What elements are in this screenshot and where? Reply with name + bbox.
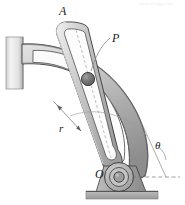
ground-strip xyxy=(86,191,158,199)
figure-canvas: A P r O θ www.chegg.com xyxy=(0,0,185,205)
wall-bracket xyxy=(6,37,23,89)
label-pivot-o: O xyxy=(95,168,104,180)
mechanism-drawing xyxy=(0,0,185,205)
label-radius-r: r xyxy=(59,123,63,134)
label-pin-p: P xyxy=(112,32,119,44)
pin-joint-P xyxy=(81,72,94,85)
pivot-joint-O xyxy=(105,163,134,192)
label-point-a: A xyxy=(59,5,66,17)
watermark-text: www.chegg.com xyxy=(139,1,173,6)
label-angle-theta: θ xyxy=(155,140,160,151)
dimension-line-r xyxy=(54,102,82,132)
